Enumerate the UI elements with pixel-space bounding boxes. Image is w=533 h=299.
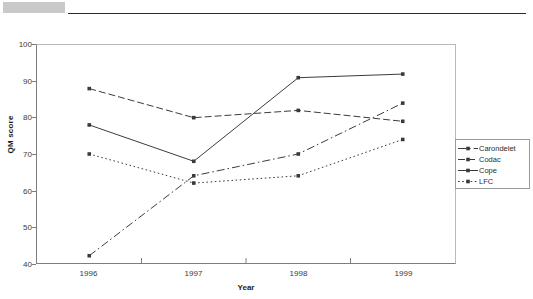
- series-line: [89, 74, 403, 161]
- header-gray-band: [3, 2, 65, 13]
- data-point-marker: [192, 159, 196, 163]
- y-tick-mark: [32, 264, 36, 265]
- series-lfc: [87, 138, 404, 185]
- legend-label: LFC: [479, 177, 493, 186]
- series-line: [89, 139, 403, 183]
- data-point-marker: [192, 174, 196, 178]
- data-point-marker: [296, 109, 300, 113]
- header-horizontal-rule: [68, 13, 526, 14]
- data-point-marker: [296, 152, 300, 156]
- legend-label: Codac: [479, 155, 501, 164]
- plot-area: [36, 44, 456, 264]
- y-tick-mark: [32, 227, 36, 228]
- data-point-marker: [87, 254, 91, 258]
- series-codac: [87, 87, 404, 123]
- legend-swatch-icon: [458, 166, 478, 175]
- legend-item-cope: Cope: [458, 165, 527, 176]
- legend-item-carondelet: Carondelet: [458, 143, 527, 154]
- legend-swatch-icon: [458, 155, 478, 164]
- series-line: [89, 103, 403, 256]
- data-point-marker: [401, 101, 405, 105]
- chart-legend: CarondeletCodacCopeLFC: [455, 139, 530, 189]
- y-tick-mark: [32, 191, 36, 192]
- x-tick-label: 1997: [164, 269, 224, 278]
- y-tick-label: 40: [10, 260, 32, 269]
- legend-label: Cope: [479, 166, 497, 175]
- legend-label: Carondelet: [479, 144, 516, 153]
- y-tick-mark: [32, 117, 36, 118]
- data-point-marker: [296, 174, 300, 178]
- y-tick-label: 80: [10, 113, 32, 122]
- y-tick-label: 100: [10, 40, 32, 49]
- legend-item-lfc: LFC: [458, 176, 527, 187]
- legend-item-codac: Codac: [458, 154, 527, 165]
- data-point-marker: [401, 138, 405, 142]
- data-point-marker: [401, 72, 405, 76]
- line-chart-figure: QM score 405060708090100 Year Carondelet…: [0, 24, 533, 299]
- x-tick-label: 1996: [59, 269, 119, 278]
- series-cope: [87, 72, 404, 163]
- legend-swatch-icon: [458, 144, 478, 153]
- data-point-marker: [87, 123, 91, 127]
- plot-lines-svg: [37, 45, 455, 263]
- data-point-marker: [296, 76, 300, 80]
- y-tick-label: 70: [10, 150, 32, 159]
- x-axis-title: Year: [36, 283, 456, 292]
- data-point-marker: [401, 120, 405, 124]
- x-tick-label: 1999: [374, 269, 434, 278]
- data-point-marker: [87, 87, 91, 91]
- x-tick-label: 1998: [269, 269, 329, 278]
- data-point-marker: [192, 116, 196, 120]
- y-tick-label: 90: [10, 76, 32, 85]
- data-point-marker: [87, 152, 91, 156]
- y-tick-mark: [32, 81, 36, 82]
- y-axis-tick-labels: 405060708090100: [8, 44, 32, 264]
- y-tick-label: 60: [10, 186, 32, 195]
- data-point-marker: [192, 181, 196, 185]
- series-carondelet: [87, 101, 404, 257]
- legend-swatch-icon: [458, 177, 478, 186]
- y-tick-mark: [32, 154, 36, 155]
- series-line: [89, 89, 403, 122]
- y-tick-label: 50: [10, 223, 32, 232]
- y-tick-mark: [32, 44, 36, 45]
